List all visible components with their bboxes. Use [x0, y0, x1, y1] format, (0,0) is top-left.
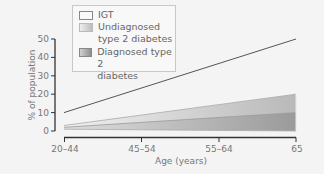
- legend-label-line: diabetes: [97, 70, 138, 81]
- y-tick-label: 50: [38, 34, 50, 44]
- igt-swatch-icon: [79, 11, 93, 20]
- y-tick-label: 30: [38, 71, 50, 81]
- diagnosed-swatch-icon: [79, 48, 92, 57]
- legend-item-diagnosed: Diagnosed type 2 diabetes: [79, 46, 175, 82]
- legend: IGT Undiagnosed type 2 diabetes Diagnose…: [72, 5, 176, 72]
- legend-label-line: Undiagnosed: [98, 21, 160, 32]
- y-tick-label: 40: [38, 52, 50, 62]
- x-tick-label: 20–44: [51, 144, 79, 154]
- x-tick-label: 65: [291, 144, 302, 154]
- x-axis-title: Age (years): [155, 156, 207, 166]
- y-tick-label: 20: [38, 89, 50, 99]
- y-axis-title: % of population: [27, 50, 37, 121]
- legend-label: IGT: [98, 9, 114, 21]
- legend-item-undiagnosed: Undiagnosed type 2 diabetes: [79, 21, 172, 45]
- legend-label: Undiagnosed type 2 diabetes: [98, 21, 172, 45]
- y-tick-label: 0: [43, 126, 49, 136]
- legend-label-line: Diagnosed type 2: [97, 46, 172, 69]
- legend-label: Diagnosed type 2 diabetes: [97, 46, 175, 82]
- x-ticks: [65, 138, 297, 143]
- undiagnosed-swatch-icon: [79, 23, 93, 32]
- x-tick-label: 45–54: [128, 144, 156, 154]
- legend-item-igt: IGT: [79, 9, 114, 21]
- legend-label-line: type 2 diabetes: [98, 33, 172, 44]
- x-tick-label: 55–64: [205, 144, 233, 154]
- y-tick-label: 10: [38, 108, 50, 118]
